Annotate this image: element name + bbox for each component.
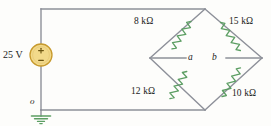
edge-bottom-left	[150, 58, 205, 110]
resistor-label-8k: 8 kΩ	[134, 16, 153, 26]
resistor-12k-symbol	[170, 72, 187, 99]
circuit-diagram-figure: 25 V 8 kΩ 15 kΩ 12 kΩ 10 kΩ a b o	[0, 0, 271, 126]
wire-group	[41, 9, 205, 116]
node-label-b: b	[212, 52, 217, 62]
earth-ground-symbol	[32, 116, 51, 124]
resistor-label-12k: 12 kΩ	[131, 86, 155, 96]
edge-bottom-right	[205, 58, 262, 110]
resistor-label-10k: 10 kΩ	[232, 88, 256, 98]
voltage-source-circle	[30, 44, 52, 66]
source-voltage-label: 25 V	[3, 49, 23, 60]
resistor-label-15k: 15 kΩ	[229, 16, 253, 26]
edge-top-left	[150, 9, 205, 58]
node-label-o: o	[30, 96, 35, 106]
node-label-a: a	[188, 52, 193, 62]
